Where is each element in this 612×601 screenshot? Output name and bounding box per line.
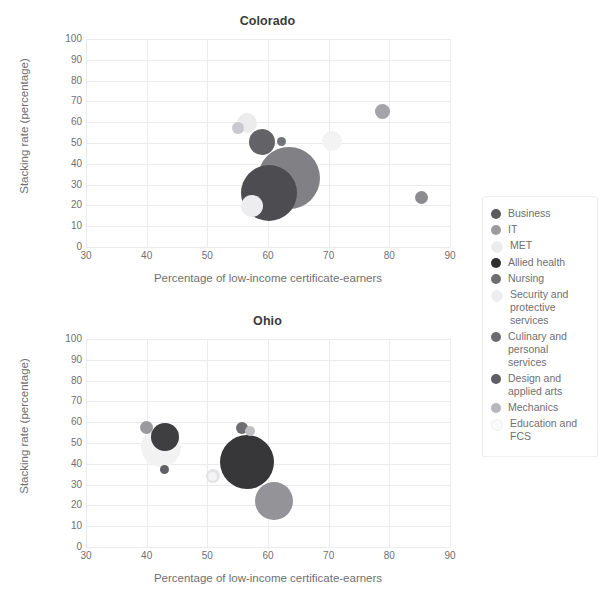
x-tick-label: 60 <box>248 250 288 261</box>
legend-swatch-icon <box>491 209 501 219</box>
y-tick-label: 90 <box>42 355 82 365</box>
y-axis-label-colorado: Stacking rate (percentage) <box>18 21 30 231</box>
legend-item-label: MET <box>510 239 532 252</box>
y-tick-label: 40 <box>42 159 82 169</box>
data-bubble <box>277 137 286 146</box>
x-tick-label: 30 <box>66 250 106 261</box>
legend-swatch-icon <box>491 403 501 413</box>
legend-item[interactable]: Mechanics <box>491 401 589 414</box>
data-bubble <box>249 129 275 155</box>
y-tick-label: 10 <box>42 221 82 231</box>
legend-swatch-icon <box>491 274 501 284</box>
legend-swatch-icon <box>491 332 501 342</box>
y-tick-label: 20 <box>42 200 82 210</box>
legend-item-label: Education and FCS <box>510 417 588 443</box>
data-bubble <box>322 131 342 151</box>
legend-swatch-icon <box>491 258 501 268</box>
data-bubble <box>232 122 244 134</box>
x-tick-label: 70 <box>309 550 349 561</box>
legend-item-label: Business <box>508 207 551 220</box>
legend-item-label: Nursing <box>508 272 544 285</box>
plot-area-colorado <box>86 39 450 247</box>
legend-item-label: Security and protective services <box>510 288 588 327</box>
legend-swatch-icon <box>491 374 501 384</box>
legend-item-label: Allied health <box>508 256 565 269</box>
legend-item[interactable]: Design and applied arts <box>491 372 589 398</box>
y-tick-label: 50 <box>42 438 82 448</box>
y-tick-label: 80 <box>42 76 82 86</box>
chart-panel-colorado: Colorado Stacking rate (percentage) 0102… <box>0 0 460 300</box>
x-tick-label: 50 <box>187 550 227 561</box>
legend-item[interactable]: Allied health <box>491 256 589 269</box>
legend-swatch-icon <box>491 290 503 302</box>
y-tick-label: 40 <box>42 459 82 469</box>
data-bubble <box>220 435 274 489</box>
chart-legend: BusinessITMETAllied healthNursingSecurit… <box>482 196 598 457</box>
y-tick-label: 30 <box>42 480 82 490</box>
y-tick-label: 100 <box>42 34 82 44</box>
y-tick-label: 70 <box>42 96 82 106</box>
x-axis-label-colorado: Percentage of low-income certificate-ear… <box>86 272 450 284</box>
chart-panel-ohio: Ohio Stacking rate (percentage) 01020304… <box>0 300 460 601</box>
x-tick-label: 80 <box>369 550 409 561</box>
gridline-horizontal <box>86 247 450 248</box>
legend-item-label: IT <box>508 223 517 236</box>
y-axis-label-ohio: Stacking rate (percentage) <box>18 321 30 531</box>
legend-item[interactable]: IT <box>491 223 589 236</box>
legend-item-label: Design and applied arts <box>508 372 586 398</box>
panel-title-ohio: Ohio <box>85 314 450 328</box>
y-tick-label: 100 <box>42 334 82 344</box>
y-tick-label: 60 <box>42 417 82 427</box>
legend-item[interactable]: Nursing <box>491 272 589 285</box>
x-axis-ticks-colorado: 30405060708090 <box>86 250 450 266</box>
y-tick-label: 90 <box>42 55 82 65</box>
x-tick-label: 40 <box>127 550 167 561</box>
data-bubble <box>151 423 179 451</box>
y-tick-label: 70 <box>42 396 82 406</box>
legend-item[interactable]: Security and protective services <box>491 288 589 327</box>
gridline-vertical <box>450 39 451 247</box>
x-tick-label: 30 <box>66 550 106 561</box>
data-bubble <box>208 472 217 481</box>
y-axis-ticks-ohio: 0102030405060708090100 <box>36 339 82 547</box>
y-tick-label: 30 <box>42 180 82 190</box>
data-bubble <box>255 482 293 520</box>
y-tick-label: 60 <box>42 117 82 127</box>
legend-item[interactable]: Education and FCS <box>491 417 589 443</box>
bubble-layer-ohio <box>86 339 450 547</box>
legend-item-label: Mechanics <box>508 401 558 414</box>
y-tick-label: 10 <box>42 521 82 531</box>
data-bubble <box>140 421 153 434</box>
legend-item[interactable]: Business <box>491 207 589 220</box>
bubble-chart-figure: Colorado Stacking rate (percentage) 0102… <box>0 0 612 601</box>
x-tick-label: 60 <box>248 550 288 561</box>
panel-title-colorado: Colorado <box>85 14 450 28</box>
y-tick-label: 80 <box>42 376 82 386</box>
data-bubble <box>160 465 169 474</box>
plot-area-ohio <box>86 339 450 547</box>
data-bubble <box>241 195 263 217</box>
x-tick-label: 40 <box>127 250 167 261</box>
y-axis-ticks-colorado: 0102030405060708090100 <box>36 39 82 247</box>
x-axis-ticks-ohio: 30405060708090 <box>86 550 450 566</box>
gridline-vertical <box>450 339 451 547</box>
x-axis-label-ohio: Percentage of low-income certificate-ear… <box>86 572 450 584</box>
x-tick-label: 80 <box>369 250 409 261</box>
legend-swatch-icon <box>491 419 503 431</box>
gridline-horizontal <box>86 547 450 548</box>
x-tick-label: 50 <box>187 250 227 261</box>
data-bubble <box>415 191 428 204</box>
y-tick-label: 50 <box>42 138 82 148</box>
x-tick-label: 90 <box>430 550 470 561</box>
x-tick-label: 70 <box>309 250 349 261</box>
data-bubble <box>375 104 390 119</box>
legend-item-label: Culinary and personal services <box>508 330 586 369</box>
legend-swatch-icon <box>491 241 503 253</box>
legend-swatch-icon <box>491 225 501 235</box>
bubble-layer-colorado <box>86 39 450 247</box>
data-bubble <box>245 426 255 436</box>
legend-item[interactable]: Culinary and personal services <box>491 330 589 369</box>
legend-item[interactable]: MET <box>491 239 589 253</box>
y-tick-label: 20 <box>42 500 82 510</box>
x-tick-label: 90 <box>430 250 470 261</box>
